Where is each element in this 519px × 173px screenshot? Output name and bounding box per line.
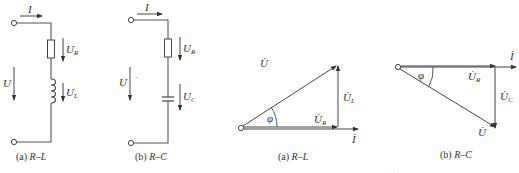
u-mark: · (135, 73, 137, 82)
current-label: I (27, 3, 33, 15)
wire-bottom (17, 103, 51, 142)
wire-top (17, 23, 51, 40)
uc-label: UC (183, 90, 196, 104)
resistor-symbol (48, 40, 55, 58)
u-label: U (119, 76, 128, 88)
terminal-bottom (128, 140, 133, 145)
u-label: U̇ (260, 57, 269, 69)
ur-label: U̇R (468, 70, 481, 84)
current-label: İ (509, 50, 515, 62)
caption-rl-phasor: (a) R–L (278, 151, 309, 163)
ur-label: UR (183, 42, 196, 56)
phi-arc (429, 67, 433, 86)
resistor-symbol (165, 39, 172, 57)
phasor-rl: U̇ U̇L U̇R İ φ (a) R–L (238, 57, 358, 163)
ur-label: UR (66, 43, 79, 57)
u-label: U̇ (478, 126, 487, 138)
wire-bottom (134, 101, 168, 143)
terminal-top (11, 20, 16, 25)
terminal-bottom (11, 139, 16, 144)
origin-point (238, 125, 243, 130)
circuit-rc: I UR UC U · (b) R–C (119, 1, 196, 163)
figure-canvas: I UR UL U (a) R–L I UR UC U · (b) R–C (0, 0, 519, 173)
wire-top (134, 20, 168, 39)
origin-point (395, 64, 400, 69)
caption-rc: (b) R–C (135, 151, 167, 163)
current-label: İ (351, 133, 357, 145)
ul-label: UL (66, 86, 78, 100)
u-phasor (400, 69, 495, 127)
phi-label: φ (418, 69, 424, 81)
phasor-rc: φ U̇R U̇C U̇ İ (b) R–C (395, 50, 516, 161)
watermark-text: · · · · (384, 165, 399, 172)
inductor-symbol (51, 79, 56, 103)
ul-label: U̇L (343, 91, 355, 105)
u-phasor (243, 66, 336, 126)
phi-label: φ (267, 112, 273, 124)
uc-label: U̇C (500, 90, 513, 104)
u-label: U (3, 77, 12, 89)
ur-label: U̇R (314, 113, 327, 127)
circuit-rl: I UR UL U (a) R–L (3, 3, 79, 163)
current-label: I (144, 1, 150, 13)
caption-rl: (a) R–L (16, 151, 47, 163)
caption-rc-phasor: (b) R–C (440, 149, 472, 161)
terminal-top (128, 17, 133, 22)
